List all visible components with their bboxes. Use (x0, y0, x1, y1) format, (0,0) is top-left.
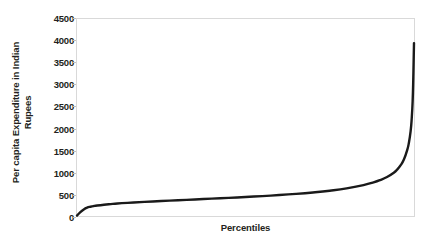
y-axis-tick-label: 4000 (38, 35, 74, 46)
data-series-line (77, 43, 414, 215)
y-axis-tick-label: 1500 (38, 145, 74, 156)
y-axis-tick-labels: 050010001500200025003000350040004500 (38, 0, 74, 249)
y-axis-tick-label: 3500 (38, 57, 74, 68)
y-axis-tick-label: 2000 (38, 123, 74, 134)
plot-svg (77, 19, 414, 216)
y-axis-title: Per capita Expenditure in Indian Rupees (2, 0, 42, 225)
y-axis-tick-label: 3000 (38, 79, 74, 90)
chart-figure: Per capita Expenditure in Indian Rupees … (0, 0, 430, 249)
x-axis-title: Percentiles (76, 222, 415, 233)
y-axis-tick-label: 2500 (38, 101, 74, 112)
y-axis-tick-label: 500 (38, 189, 74, 200)
y-axis-title-line1: Per capita Expenditure in Indian (11, 42, 23, 183)
y-axis-tick-label: 1000 (38, 167, 74, 178)
y-axis-title-line2: Rupees (22, 42, 34, 183)
y-axis-tick-label: 0 (38, 212, 74, 223)
plot-area (76, 18, 415, 217)
y-axis-tick-label: 4500 (38, 13, 74, 24)
